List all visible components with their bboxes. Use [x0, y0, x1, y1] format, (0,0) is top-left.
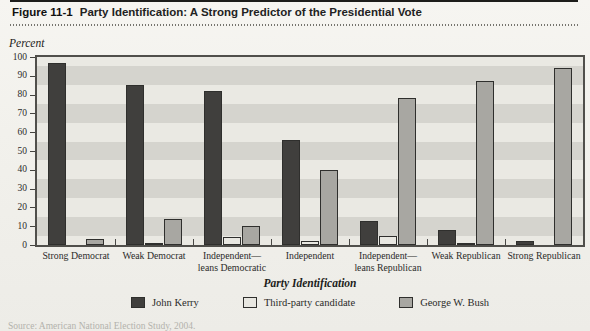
- category-label: Weak Democrat: [115, 250, 193, 273]
- figure-title-row: Figure 11-1Party Identification: A Stron…: [12, 6, 578, 18]
- y-tick-label: 100: [0, 53, 27, 63]
- y-axis-title: Percent: [9, 37, 44, 49]
- bar-john-kerry-strong-republican: [516, 241, 534, 245]
- bar-third-party-candidate-independent: [223, 237, 241, 245]
- bar-third-party-candidate-independent: [379, 236, 397, 245]
- category-label: Independent: [271, 250, 349, 273]
- plot-area: [35, 55, 585, 247]
- bar-john-kerry-weak-republican: [438, 230, 456, 245]
- y-tick-label: 40: [0, 165, 27, 175]
- category-label: Weak Republican: [427, 250, 505, 273]
- bar-george-w-bush-weak-democrat: [164, 219, 182, 245]
- bar-john-kerry-independent: [204, 91, 222, 245]
- legend-swatch: [243, 297, 257, 308]
- bar-john-kerry-independent: [282, 140, 300, 245]
- category-boundary-tick: [349, 239, 350, 245]
- legend: John KerryThird-party candidateGeorge W.…: [37, 297, 583, 308]
- category-label: Strong Republican: [505, 250, 583, 273]
- legend-entry-george-w-bush: George W. Bush: [399, 297, 489, 308]
- bar-john-kerry-independent: [360, 221, 378, 245]
- bar-george-w-bush-weak-republican: [476, 81, 494, 245]
- bar-john-kerry-weak-democrat: [126, 85, 144, 245]
- figure-title: Party Identification: A Strong Predictor…: [80, 6, 422, 18]
- category-label: Independent— leans Republican: [349, 250, 427, 273]
- category-boundary-tick: [271, 239, 272, 245]
- figure-page: Figure 11-1Party Identification: A Stron…: [0, 0, 590, 331]
- category-boundary-tick: [115, 239, 116, 245]
- category-boundary-tick: [505, 239, 506, 245]
- y-tick-label: 90: [0, 71, 27, 81]
- legend-swatch: [399, 297, 413, 308]
- y-tick-label: 0: [0, 241, 27, 251]
- bar-third-party-candidate-weak-republican: [457, 243, 475, 245]
- figure-number: Figure 11-1: [12, 6, 73, 18]
- y-tick-label: 50: [0, 147, 27, 157]
- bar-george-w-bush-strong-republican: [554, 68, 572, 245]
- bar-george-w-bush-strong-democrat: [86, 239, 104, 245]
- legend-label: Third-party candidate: [264, 297, 355, 308]
- y-tick-label: 80: [0, 90, 27, 100]
- bar-third-party-candidate-independent: [301, 241, 319, 245]
- x-axis-title: Party Identification: [37, 277, 583, 289]
- legend-swatch: [131, 297, 145, 308]
- category-boundary-tick: [427, 239, 428, 245]
- y-tick-label: 10: [0, 222, 27, 232]
- dotted-rule: [10, 24, 578, 26]
- legend-label: George W. Bush: [420, 297, 489, 308]
- bar-george-w-bush-independent: [242, 226, 260, 245]
- legend-entry-third-party-candidate: Third-party candidate: [243, 297, 355, 308]
- bar-third-party-candidate-weak-democrat: [145, 243, 163, 245]
- y-tick-label: 60: [0, 128, 27, 138]
- legend-entry-john-kerry: John Kerry: [131, 297, 199, 308]
- bar-george-w-bush-independent: [320, 170, 338, 245]
- bar-john-kerry-strong-democrat: [48, 63, 66, 245]
- x-axis-labels: Strong DemocratWeak DemocratIndependent—…: [37, 250, 583, 273]
- source-note: Source: American National Election Study…: [8, 321, 196, 331]
- bar-george-w-bush-independent: [398, 98, 416, 245]
- top-rule: [10, 0, 578, 2]
- y-axis: 0102030405060708090100: [0, 57, 35, 245]
- y-tick-label: 30: [0, 184, 27, 194]
- y-tick-label: 70: [0, 109, 27, 119]
- category-label: Strong Democrat: [37, 250, 115, 273]
- category-boundary-tick: [193, 239, 194, 245]
- category-label: Independent— leans Democratic: [193, 250, 271, 273]
- y-tick-label: 20: [0, 203, 27, 213]
- legend-label: John Kerry: [152, 297, 199, 308]
